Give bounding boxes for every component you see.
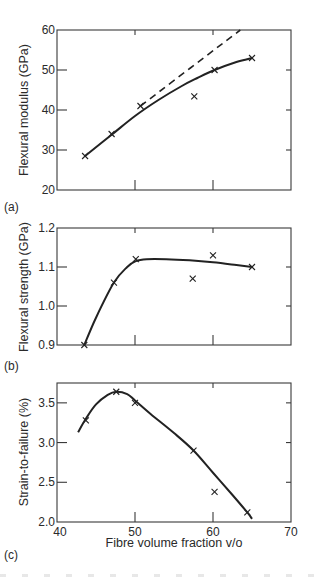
y-axis-label-b: Flexural strength (GPa) xyxy=(17,222,31,352)
y-axis-label-a: Flexural modulus (GPa) xyxy=(17,44,31,176)
chart-panel-a: 2030405060 xyxy=(42,23,291,197)
y-tick-label: 20 xyxy=(42,183,56,197)
x-marker-icon xyxy=(210,252,216,258)
y-tick-label: 1.1 xyxy=(38,260,55,274)
fitted-curve xyxy=(85,58,252,156)
x-axis-label-c: Fibre volume fraction v/o xyxy=(106,536,243,550)
y-tick-label: 50 xyxy=(42,63,56,77)
y-tick-label: 0.9 xyxy=(38,338,55,352)
x-marker-icon xyxy=(212,489,218,495)
y-axis-label-c: Strain-to-failure (%) xyxy=(17,398,31,506)
y-tick-label: 1.2 xyxy=(38,221,55,235)
x-tick-label: 70 xyxy=(284,525,298,539)
panel-label-a: (a) xyxy=(4,200,19,214)
x-tick-label: 40 xyxy=(53,525,67,539)
y-tick-label: 3.5 xyxy=(38,396,55,410)
y-tick-label: 2.5 xyxy=(38,475,55,489)
panel-label-c: (c) xyxy=(4,548,18,562)
figure: 2030405060 0.91.01.11.2 405060702.02.53.… xyxy=(0,0,315,577)
y-tick-label: 60 xyxy=(42,23,56,37)
x-marker-icon xyxy=(191,93,197,99)
plot-frame xyxy=(57,383,291,522)
chart-panel-b: 0.91.01.11.2 xyxy=(38,221,291,352)
dashed-fit-line xyxy=(140,30,240,106)
x-marker-icon xyxy=(190,276,196,282)
y-tick-label: 3.0 xyxy=(38,436,55,450)
y-tick-label: 2.0 xyxy=(38,515,55,529)
panel-label-b: (b) xyxy=(4,359,19,373)
y-tick-label: 40 xyxy=(42,103,56,117)
fitted-curve xyxy=(84,259,252,345)
chart-panel-c: 405060702.02.53.03.5 xyxy=(38,383,298,539)
y-tick-label: 1.0 xyxy=(38,299,55,313)
y-tick-label: 30 xyxy=(42,143,56,157)
plot-frame xyxy=(57,30,291,190)
fitted-curve xyxy=(78,392,252,519)
